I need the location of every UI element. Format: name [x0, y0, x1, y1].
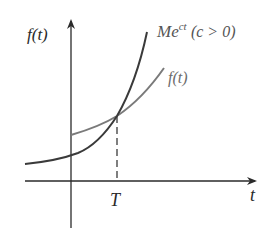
y-axis-label-text: f(t) [27, 25, 48, 44]
t-tick-label-text: T [110, 190, 120, 210]
f-curve-label: f(t) [168, 70, 188, 86]
f-curve [71, 68, 164, 135]
f-curve-label-text: f(t) [168, 69, 188, 86]
exponential-label: Mect (c > 0) [157, 23, 235, 40]
exponential-label-condition: (c > 0) [191, 23, 236, 40]
exponential-curve [25, 32, 147, 164]
x-axis-label-text: t [250, 185, 255, 205]
t-tick-label: T [110, 191, 120, 209]
exponential-label-main: Me [157, 22, 179, 41]
exponential-label-sup: ct [179, 20, 187, 32]
x-axis-label: t [250, 186, 255, 204]
y-axis-label: f(t) [27, 26, 48, 43]
